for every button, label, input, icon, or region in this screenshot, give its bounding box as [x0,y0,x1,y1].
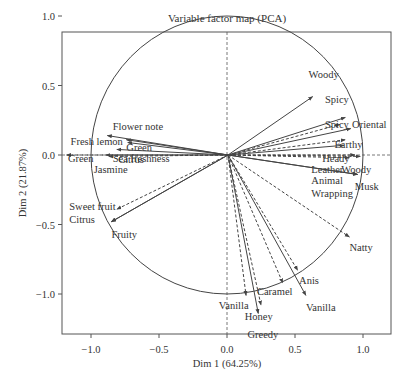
variable-label: Woody [309,69,340,80]
variable-label: Fruity [111,229,137,240]
variable-label: Flower note [113,121,164,132]
variable-label: Spicy [325,119,350,130]
variable-label: Animal [311,175,343,186]
variable-label: Sweet fruit [69,201,115,212]
variable-label: Honey [245,311,274,322]
variable-label: Green [68,153,94,164]
variable-label: Greedy [247,329,279,340]
y-axis-label: Dim 2 (21.87%) [17,148,29,217]
variable-label: Oriental [352,119,386,130]
variable-label: Anis [299,275,319,286]
y-tick-label: 1.0 [42,11,55,22]
variable-label: Fresh lemon [71,136,124,147]
arrow-line [228,155,298,270]
variable-label: Musk [355,181,380,192]
x-axis-label: Dim 1 (64.25%) [193,358,262,370]
variable-label: Woody [341,164,372,175]
variable-label: Citrus [69,214,95,225]
variable-label: Sea freshness [113,153,170,164]
x-tick-label: −1.0 [81,344,100,355]
variable-label: Jasmine [94,164,128,175]
variable-label: Vanilla [306,302,336,313]
variable-label: Spicy [325,94,350,105]
x-tick-label: −0.5 [149,344,168,355]
arrow-line [228,155,261,305]
y-tick-label: 0.0 [42,150,55,161]
variable-label: Leather [311,164,344,175]
plot-area: WoodySpicySpicyOrientalEarthyHeadyLeathe… [62,16,391,340]
y-tick-label: −0.5 [36,220,55,231]
variable-arrow: Caramel [228,155,293,297]
variable-label: Natty [349,242,373,253]
variable-label: Earthy [334,139,363,150]
variable-label: Caramel [257,286,293,297]
y-axis: −1.0−0.50.00.51.0 [36,11,62,300]
x-axis: −1.0−0.50.00.51.0 [81,334,369,355]
arrow-line [228,155,258,313]
x-tick-label: 0.0 [220,344,233,355]
variable-label: Vanilla [219,300,249,311]
pca-variable-factor-map: Variable factor map (PCA) WoodySpicySpic… [0,0,409,389]
arrow-line [228,155,283,283]
variable-label: Heady [322,153,350,164]
variable-arrow: Fruity [111,155,228,240]
variable-arrow: Anis [228,155,319,286]
arrow-line [228,155,306,295]
x-tick-label: 0.5 [288,344,301,355]
x-tick-label: 1.0 [356,344,369,355]
variable-arrow: Vanilla [219,155,249,311]
variable-label: Wrapping [311,188,353,199]
y-tick-label: −1.0 [36,289,55,300]
y-tick-label: 0.5 [42,81,55,92]
